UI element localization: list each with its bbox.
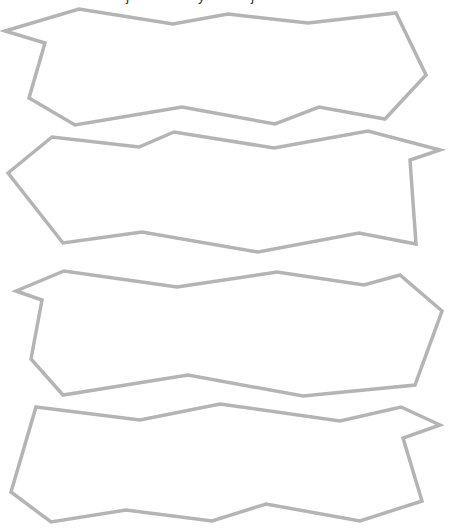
torn-paper-shape-1 xyxy=(5,9,426,125)
torn-paper-shape-4 xyxy=(11,404,440,522)
shapes-canvas xyxy=(0,0,453,531)
torn-paper-shape-3 xyxy=(16,271,442,396)
torn-paper-shape-2 xyxy=(8,131,440,252)
